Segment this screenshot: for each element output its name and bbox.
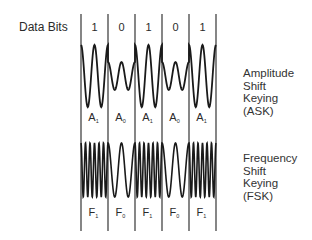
ask-waveform <box>81 45 216 107</box>
bit-value: 1 <box>199 21 205 33</box>
ask-segment-label: A0 <box>115 111 125 124</box>
bit-value: 1 <box>145 21 151 33</box>
ask-segment-label: A1 <box>142 111 152 124</box>
ask-segment-label: A1 <box>196 111 206 124</box>
fsk-title-line: (FSK) <box>243 190 297 203</box>
bit-value: 0 <box>172 21 178 33</box>
fsk-title-line: Shift <box>243 165 297 178</box>
fsk-title-line: Frequency <box>243 152 297 165</box>
fsk-waveform <box>81 143 216 197</box>
bit-value: 0 <box>118 21 124 33</box>
fsk-title: Frequency Shift Keying (FSK) <box>243 152 297 202</box>
ask-title-line: Amplitude <box>243 67 294 80</box>
fsk-segment-label: F1 <box>89 206 99 219</box>
ask-title: Amplitude Shift Keying (ASK) <box>243 67 294 117</box>
fsk-segment-label: F1 <box>143 206 153 219</box>
ask-segment-label: A1 <box>88 111 98 124</box>
bit-value: 1 <box>91 21 97 33</box>
ask-title-line: Shift <box>243 80 294 93</box>
ask-title-line: (ASK) <box>243 105 294 118</box>
ask-title-line: Keying <box>243 92 294 105</box>
ask-segment-label: A0 <box>169 111 179 124</box>
fsk-title-line: Keying <box>243 177 297 190</box>
fsk-segment-label: F1 <box>197 206 207 219</box>
fsk-segment-label: F0 <box>170 206 180 219</box>
fsk-segment-label: F0 <box>116 206 126 219</box>
